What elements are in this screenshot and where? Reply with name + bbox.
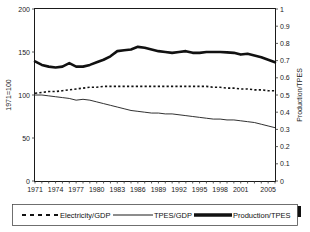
y-axis-right-tick-label: 0.7 xyxy=(280,57,290,64)
x-axis-tick-label: 1983 xyxy=(109,186,125,193)
y-axis-right-tick-label: 0.5 xyxy=(280,92,290,99)
x-axis-tick-label: 1995 xyxy=(192,186,208,193)
x-axis-tick-label: 1992 xyxy=(171,186,187,193)
x-axis-tick-label: 1986 xyxy=(130,186,146,193)
y-axis-right-tick-label: 0.2 xyxy=(280,143,290,150)
x-axis-tick-label: 2001 xyxy=(233,186,249,193)
x-axis-tick-label: 1989 xyxy=(151,186,167,193)
y-axis-right-tick-label: 0.3 xyxy=(280,126,290,133)
x-axis-tick-label: 1998 xyxy=(212,186,228,193)
plot-area-frame xyxy=(35,9,276,182)
legend-label-tpes-gdp: TPES/GDP xyxy=(154,211,192,220)
y-axis-right-tick-label: 0.9 xyxy=(280,23,290,30)
x-axis-tick-label: 1977 xyxy=(68,186,84,193)
y-axis-left-tick-label: 150 xyxy=(18,49,30,56)
y-axis-left-tick-label: 50 xyxy=(22,135,30,142)
y-axis-right-title: Production/TPES xyxy=(296,68,303,122)
legend-label-production-tpes: Production/TPES xyxy=(233,211,291,220)
y-axis-left-tick-label: 0 xyxy=(26,178,30,185)
y-axis-left-title: 1971=100 xyxy=(5,79,12,110)
x-axis-tick-label: 1980 xyxy=(89,186,105,193)
y-axis-right-tick-label: 0.6 xyxy=(280,74,290,81)
x-axis-tick-label: 1971 xyxy=(27,186,43,193)
y-axis-right-tick-label: 0.8 xyxy=(280,40,290,47)
x-axis-tick-label: 2005 xyxy=(260,186,276,193)
y-axis-right-tick-label: 0.1 xyxy=(280,160,290,167)
legend-label-electricity-gdp: Electricity/GDP xyxy=(60,211,110,220)
y-axis-right-tick-label: 0.4 xyxy=(280,109,290,116)
y-axis-left-tick-label: 100 xyxy=(18,92,30,99)
x-axis-tick-label: 1974 xyxy=(48,186,64,193)
y-axis-right-tick-label: 1 xyxy=(280,6,284,13)
y-axis-right-tick-label: 0 xyxy=(280,178,284,185)
line-chart-figure: 050100150200 00.10.20.30.40.50.60.70.80.… xyxy=(0,0,310,232)
y-axis-left-tick-label: 200 xyxy=(18,6,30,13)
